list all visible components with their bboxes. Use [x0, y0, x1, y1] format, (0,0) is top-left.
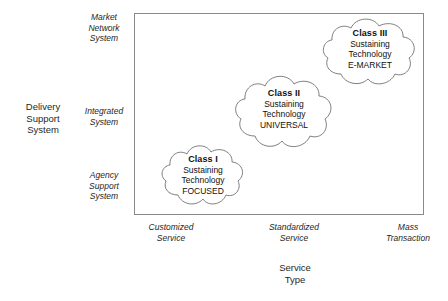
cloud-node-class-3: Class III Sustaining Technology E-MARKET [318, 12, 422, 92]
x-tick-standardized-service: Standardized Service [248, 222, 340, 243]
y-axis-title: Delivery Support System [6, 101, 80, 136]
y-tick-market-network-system: Market Network System [72, 12, 136, 44]
y-tick-agency-support-system: Agency Support System [72, 170, 136, 202]
cloud-shape-icon [318, 12, 422, 92]
x-tick-mass-transaction: Mass Transaction [368, 222, 448, 243]
y-tick-integrated-system: Integrated System [72, 106, 136, 127]
x-tick-customized-service: Customized Service [129, 222, 213, 243]
diagram-root: Delivery Support System Market Network S… [0, 0, 448, 301]
x-axis-title: Service Type [252, 262, 338, 285]
